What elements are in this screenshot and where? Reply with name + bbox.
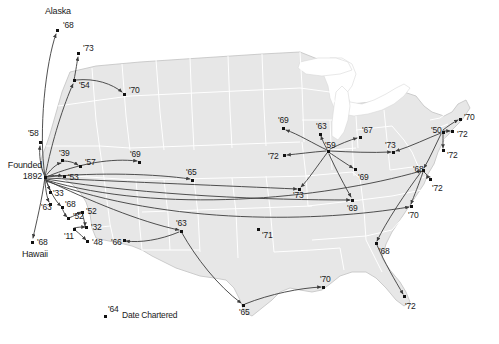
- node-year-hub3: '50: [431, 126, 441, 135]
- node-year-n70la: '70: [320, 275, 330, 284]
- node-year-n73ks: '73: [293, 191, 303, 200]
- node-dot-n63wi: [319, 133, 322, 136]
- node-year-n69il: '69: [358, 173, 368, 182]
- node-dot-n54: [73, 79, 76, 82]
- node-dot-n70ne: [459, 118, 462, 121]
- node-dot-n33: [49, 191, 52, 194]
- node-year-n33: '33: [53, 189, 63, 198]
- node-year-n71ok: '71: [262, 231, 272, 240]
- node-dot-n58: [39, 141, 42, 144]
- map-figure: '68'73'54'70'58'39'57'53'33'63'68'52'52'…: [0, 0, 499, 344]
- node-dot-n65ks: [191, 179, 194, 182]
- node-dot-n72fl: [403, 295, 406, 298]
- node-year-n68ga: '68: [379, 247, 389, 256]
- node-year-n11: '11: [64, 232, 74, 241]
- node-year-hub2: '59: [325, 141, 335, 150]
- node-dot-n73nw: [77, 52, 80, 55]
- node-year-n73oh: '73: [385, 141, 395, 150]
- node-year-n58: '58: [28, 129, 38, 138]
- node-dot-n69nm: [138, 161, 141, 164]
- node-year-n70va: '70: [408, 211, 418, 220]
- node-year-n68pa: '68: [413, 165, 423, 174]
- node-dot-n72ny: [451, 130, 454, 133]
- node-year-n69mo: '69: [347, 204, 357, 213]
- node-year-n53: '53: [68, 173, 78, 182]
- node-year-n57: '57: [85, 158, 95, 167]
- node-year-n32: '32: [91, 223, 101, 232]
- node-year-n72fl: '72: [405, 302, 415, 311]
- node-year-n72ny: '72: [457, 130, 467, 139]
- arc-11-48: [75, 230, 86, 240]
- node-dot-n68ca: [61, 206, 64, 209]
- legend-text: Date Chartered: [122, 311, 177, 320]
- node-dot-n48: [86, 240, 89, 243]
- node-dot-n69mn: [282, 127, 285, 130]
- node-year-n70ne: '70: [464, 113, 474, 122]
- node-dot-n68hi: [31, 241, 34, 244]
- node-year-n48: '48: [92, 238, 102, 247]
- node-year-n63wi: '63: [316, 122, 326, 131]
- node-year-n66az: '66: [111, 238, 121, 247]
- node-dot-n52b: [81, 211, 84, 214]
- node-year-n68ca: '68: [65, 200, 75, 209]
- node-year-n72ne: '72: [268, 152, 278, 161]
- node-year-n72nj: '72: [447, 151, 457, 160]
- node-dot-n52: [67, 217, 70, 220]
- label-hawaii: Hawaii: [22, 250, 48, 259]
- node-dot-n66az: [123, 239, 126, 242]
- node-year-n68hi: '68: [37, 238, 47, 247]
- node-dot-n32: [85, 226, 88, 229]
- node-year-n63tx: '63: [176, 219, 186, 228]
- node-dot-n69il: [354, 168, 357, 171]
- founded-line2: 1892: [0, 172, 42, 181]
- node-dot-n70va: [410, 205, 413, 208]
- node-year-n52b: '52: [86, 207, 96, 216]
- node-year-n54: '54: [79, 81, 89, 90]
- node-year-n39: '39: [59, 149, 69, 158]
- node-dot-alaska: [56, 29, 59, 32]
- node-year-n67mi: '67: [362, 126, 372, 135]
- arc-11-32: [74, 227, 85, 228]
- founded-line1: Founded: [0, 161, 42, 170]
- node-dot-n67mi: [359, 136, 362, 139]
- node-dot-n57: [79, 165, 82, 168]
- node-dot-n70id: [123, 93, 126, 96]
- node-dot-n68ga: [375, 242, 378, 245]
- node-dot-n72ne: [283, 154, 286, 157]
- node-dot-n39: [61, 159, 64, 162]
- node-year-n73nw: '73: [83, 44, 93, 53]
- node-year-n63ca: '63: [41, 203, 51, 212]
- node-year-alaska: '68: [63, 21, 73, 30]
- node-dot-n53: [63, 175, 66, 178]
- node-dot-n73oh: [392, 151, 395, 154]
- legend-dot: [104, 315, 107, 318]
- node-year-n69mn: '69: [278, 116, 288, 125]
- legend-year: '64: [108, 305, 118, 314]
- node-dot-n72nj: [442, 149, 445, 152]
- node-dot-hub3: [442, 131, 445, 134]
- node-year-n65tx: '65: [239, 308, 249, 317]
- node-year-n69nm: '69: [130, 150, 140, 159]
- node-year-n72md: '72: [432, 184, 442, 193]
- node-dot-n70la: [322, 286, 325, 289]
- node-year-n70id: '70: [129, 86, 139, 95]
- node-dot-n71ok: [257, 228, 260, 231]
- node-dot-n72md: [429, 178, 432, 181]
- node-dot-hub: [44, 176, 47, 179]
- node-dot-n63tx: [180, 230, 183, 233]
- node-dot-n69mo: [351, 199, 354, 202]
- node-year-n65ks: '65: [186, 168, 196, 177]
- label-alaska: Alaska: [45, 7, 71, 16]
